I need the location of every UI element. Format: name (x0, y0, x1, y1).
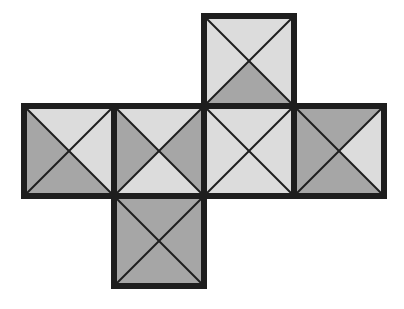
face-right (294, 106, 384, 196)
face-center-right (204, 106, 294, 196)
cube-net-diagram (0, 0, 404, 309)
face-top (204, 16, 294, 106)
face-center-left (114, 106, 204, 196)
face-left (24, 106, 114, 196)
face-bottom (114, 196, 204, 286)
